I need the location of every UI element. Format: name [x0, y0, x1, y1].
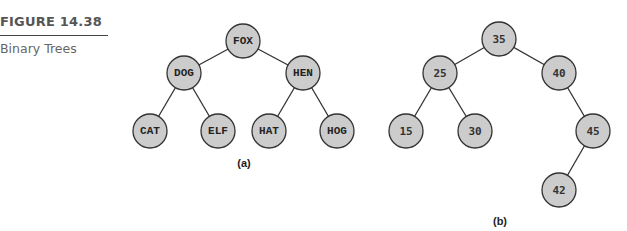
- binary-trees-diagram: FOX DOG HEN CAT ELF HAT HOG (a) 35: [0, 0, 627, 231]
- tree-a-label: (a): [237, 157, 251, 169]
- tree-a-node-left-left: CAT: [133, 114, 167, 148]
- tree-b-node-right-right-left: 42: [542, 173, 576, 207]
- node-label: ELF: [208, 125, 228, 137]
- node-label: CAT: [140, 125, 160, 137]
- node-label: 25: [433, 67, 446, 80]
- tree-b-node-right-right: 45: [576, 114, 610, 148]
- node-label: HOG: [327, 125, 347, 137]
- tree-a-node-right-right: HOG: [320, 114, 354, 148]
- node-label: 45: [586, 125, 599, 138]
- tree-a-node-root: FOX: [226, 24, 260, 58]
- tree-b-label: (b): [493, 215, 507, 227]
- node-label: 15: [399, 125, 412, 138]
- tree-a-node-right: HEN: [286, 56, 320, 90]
- tree-a-node-right-left: HAT: [252, 114, 286, 148]
- tree-b-node-root: 35: [482, 22, 516, 56]
- node-label: FOX: [233, 35, 253, 47]
- tree-a-node-left: DOG: [167, 56, 201, 90]
- node-label: DOG: [174, 67, 194, 79]
- node-label: HEN: [293, 67, 313, 79]
- node-label: 40: [552, 67, 565, 80]
- node-label: 35: [492, 33, 505, 46]
- node-label: HAT: [259, 125, 279, 137]
- tree-b-node-left-right: 30: [458, 114, 492, 148]
- node-label: 30: [468, 125, 481, 138]
- tree-b-node-left-left: 15: [389, 114, 423, 148]
- node-label: 42: [552, 184, 565, 197]
- tree-a-node-left-right: ELF: [201, 114, 235, 148]
- tree-b-node-right: 40: [542, 56, 576, 90]
- tree-b-node-left: 25: [423, 56, 457, 90]
